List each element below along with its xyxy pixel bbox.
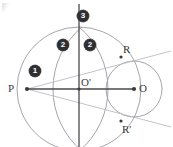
point-dot-p — [25, 87, 29, 91]
point-label-rp: R' — [122, 124, 131, 135]
point-label-o: O — [139, 83, 147, 94]
step-badge-2: 2 — [57, 39, 69, 51]
point-dot-r — [119, 55, 122, 58]
tangent-line-through-r-prime — [27, 89, 171, 127]
point-label-p: P — [8, 83, 14, 94]
tangent-line-through-r — [27, 51, 171, 89]
geometry-figure: PO'ORR' 1223 — [0, 0, 173, 147]
point-dot-o — [132, 87, 136, 91]
step-badge-3: 3 — [77, 10, 89, 22]
step-badge-1: 1 — [29, 65, 41, 77]
geometry-canvas — [0, 0, 173, 147]
step-badge-2: 2 — [84, 39, 96, 51]
point-label-r: R — [123, 44, 130, 55]
point-label-oc: O' — [81, 77, 91, 88]
